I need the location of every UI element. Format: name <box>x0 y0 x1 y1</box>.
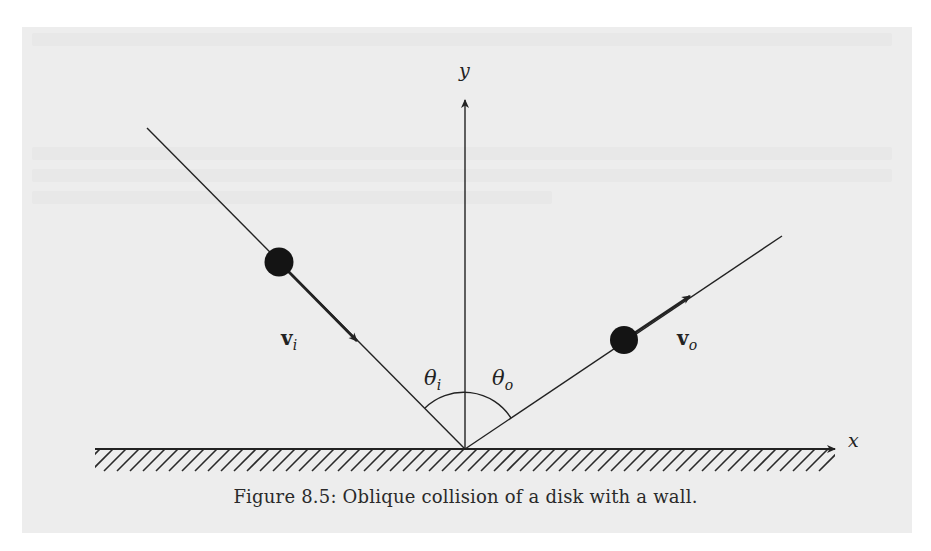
velocity-in-label: vi <box>280 326 297 353</box>
y-axis-label: y <box>458 59 470 81</box>
collision-diagram: y x vi vo θi θo <box>0 0 931 551</box>
outgoing-disk <box>610 326 638 354</box>
figure-caption: Figure 8.5: Oblique collision of a disk … <box>0 486 931 507</box>
theta-out-label: θo <box>492 366 513 393</box>
velocity-out-label: vo <box>676 326 697 353</box>
incoming-disk <box>265 248 294 277</box>
theta-in-label: θi <box>424 366 441 393</box>
wall-hatching <box>78 449 841 471</box>
angle-arc <box>425 392 511 418</box>
x-axis-label: x <box>848 429 859 451</box>
